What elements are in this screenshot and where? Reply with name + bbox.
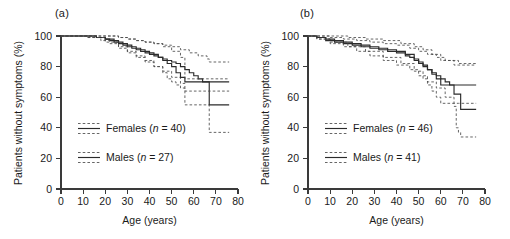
panel-b-ytick-100: 100 bbox=[281, 30, 299, 42]
panel-a-legend-females: Females (n = 40) bbox=[78, 122, 186, 134]
panel-a-xtick-20: 20 bbox=[99, 195, 111, 207]
panel-a: (a) Patients without symptoms (%) 0 20 4… bbox=[0, 0, 255, 239]
panel-a-xtick-80: 80 bbox=[232, 195, 244, 207]
panel-b-legend-males: Males (n = 41) bbox=[325, 151, 420, 163]
curve-estimate bbox=[61, 36, 229, 105]
panel-b-ytick-40: 40 bbox=[287, 121, 299, 133]
panel-b-ytick-80: 80 bbox=[287, 60, 299, 72]
panel-a-xtick-50: 50 bbox=[166, 195, 178, 207]
panel-a-xtick-30: 30 bbox=[122, 195, 134, 207]
panel-a-ytick-0: 0 bbox=[46, 183, 52, 195]
panel-a-legend: Females (n = 40) Males (n = 27) bbox=[78, 122, 186, 163]
panel-b-ylabel: Patients without symptoms (%) bbox=[259, 41, 271, 185]
panel-b-xtick-20: 20 bbox=[346, 195, 358, 207]
panel-b-legend-males-label: Males (n = 41) bbox=[353, 151, 420, 163]
panel-a-x-ticks: 0 10 20 30 40 50 60 70 80 bbox=[58, 189, 244, 207]
panel-a-ytick-60: 60 bbox=[40, 91, 52, 103]
panel-a-ytick-20: 20 bbox=[40, 152, 52, 164]
panel-b: (b) Patients without symptoms (%) 0 20 4… bbox=[255, 0, 510, 239]
panel-a-plot: Patients without symptoms (%) 0 20 40 60… bbox=[0, 0, 255, 239]
panel-b-xtick-80: 80 bbox=[479, 195, 491, 207]
panel-a-xtick-60: 60 bbox=[188, 195, 200, 207]
panel-b-ytick-60: 60 bbox=[287, 91, 299, 103]
panel-a-ytick-40: 40 bbox=[40, 121, 52, 133]
panel-b-plot: Patients without symptoms (%) 0 20 40 60… bbox=[255, 0, 510, 239]
panel-a-curves bbox=[61, 36, 229, 132]
panel-b-xtick-60: 60 bbox=[435, 195, 447, 207]
curve-ci-upper bbox=[61, 36, 229, 62]
panel-a-legend-males-label: Males (n = 27) bbox=[106, 151, 173, 163]
curve-estimate bbox=[308, 36, 476, 109]
panel-b-legend-females-label: Females (n = 46) bbox=[353, 122, 433, 134]
panel-a-ytick-80: 80 bbox=[40, 60, 52, 72]
panel-b-xtick-30: 30 bbox=[369, 195, 381, 207]
panel-b-x-ticks: 0 10 20 30 40 50 60 70 80 bbox=[305, 189, 491, 207]
panel-a-xtick-10: 10 bbox=[77, 195, 89, 207]
panel-b-xtick-70: 70 bbox=[457, 195, 469, 207]
panel-b-y-ticks: 0 20 40 60 80 100 bbox=[281, 30, 308, 195]
panel-a-ytick-100: 100 bbox=[34, 30, 52, 42]
curve-ci-lower bbox=[61, 36, 229, 91]
panel-a-y-ticks: 0 20 40 60 80 100 bbox=[34, 30, 61, 195]
panel-b-ytick-0: 0 bbox=[293, 183, 299, 195]
panel-b-xtick-0: 0 bbox=[305, 195, 311, 207]
panel-b-xlabel: Age (years) bbox=[369, 214, 423, 226]
panel-a-xtick-70: 70 bbox=[210, 195, 222, 207]
panel-b-legend-females: Females (n = 46) bbox=[325, 122, 433, 134]
panel-a-xtick-40: 40 bbox=[144, 195, 156, 207]
panel-b-xtick-10: 10 bbox=[324, 195, 336, 207]
panel-a-xlabel: Age (years) bbox=[122, 214, 176, 226]
panel-b-ytick-20: 20 bbox=[287, 152, 299, 164]
panel-b-legend: Females (n = 46) Males (n = 41) bbox=[325, 122, 433, 163]
curve-estimate bbox=[61, 36, 229, 82]
panel-a-xtick-0: 0 bbox=[58, 195, 64, 207]
panel-a-ylabel: Patients without symptoms (%) bbox=[12, 41, 24, 185]
figure-container: (a) Patients without symptoms (%) 0 20 4… bbox=[0, 0, 510, 239]
panel-a-legend-females-label: Females (n = 40) bbox=[106, 122, 186, 134]
panel-a-legend-males: Males (n = 27) bbox=[78, 151, 173, 163]
panel-b-xtick-40: 40 bbox=[391, 195, 403, 207]
panel-b-xtick-50: 50 bbox=[413, 195, 425, 207]
curve-ci-lower bbox=[308, 36, 476, 103]
